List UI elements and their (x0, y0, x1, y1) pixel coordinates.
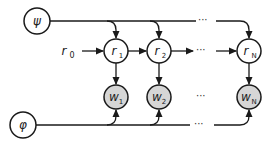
r0-label: r 0 (62, 44, 75, 60)
svg-text:N: N (251, 98, 256, 106)
ellipsis-phi: ··· (194, 118, 204, 129)
svg-text:r: r (62, 44, 68, 58)
phi-edges (36, 110, 249, 125)
svg-text:1: 1 (119, 98, 123, 106)
w1-node: w 1 (104, 85, 128, 109)
w2-node: w 2 (147, 85, 171, 109)
svg-text:w: w (241, 90, 251, 104)
svg-text:2: 2 (162, 52, 166, 60)
r2-node: r 2 (147, 39, 171, 63)
r1-node: r 1 (104, 39, 128, 63)
wN-node: w N (237, 85, 261, 109)
svg-text:N: N (251, 52, 256, 60)
ellipsis-chain: ··· (196, 44, 206, 55)
svg-text:1: 1 (119, 52, 123, 60)
psi-node: ψ (24, 8, 50, 34)
ellipsis-psi: ··· (198, 14, 208, 25)
svg-text:w: w (109, 90, 119, 104)
phi-node: φ (10, 112, 36, 138)
svg-text:0: 0 (69, 51, 74, 60)
rN-node: r N (237, 39, 261, 63)
svg-text:w: w (152, 90, 162, 104)
phi-label: φ (19, 118, 27, 132)
ellipsis-w: ··· (196, 90, 206, 101)
svg-text:2: 2 (162, 98, 166, 106)
graphical-model-diagram: ··· ··· ··· ··· ψ φ r 0 r 1 r 2 r N w 1 … (0, 0, 272, 141)
psi-edges (50, 21, 249, 38)
psi-label: ψ (33, 14, 42, 28)
